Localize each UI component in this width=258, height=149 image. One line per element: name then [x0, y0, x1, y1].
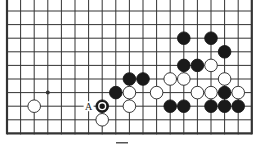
black-stone — [218, 100, 231, 113]
black-stone — [96, 100, 109, 113]
star-point — [46, 91, 50, 95]
black-stone — [137, 73, 150, 86]
black-stone — [218, 46, 231, 59]
black-stone — [110, 86, 123, 99]
black-stone — [205, 100, 218, 113]
black-stone — [164, 100, 177, 113]
black-stone — [218, 86, 231, 99]
black-stone — [191, 59, 204, 72]
white-stone — [232, 86, 245, 99]
star-points — [46, 91, 50, 95]
black-stone — [232, 100, 245, 113]
black-stone — [178, 59, 191, 72]
white-stone — [150, 86, 163, 99]
black-stone — [123, 73, 136, 86]
white-stone — [218, 73, 231, 86]
white-stone — [205, 59, 218, 72]
white-stone — [205, 86, 218, 99]
point-label: A — [85, 101, 93, 112]
white-stone — [28, 100, 41, 113]
black-stone — [178, 100, 191, 113]
black-stone — [205, 32, 218, 45]
white-stone — [164, 73, 177, 86]
board-labels: A — [84, 101, 94, 112]
white-stone — [123, 100, 136, 113]
white-stone — [96, 114, 109, 127]
go-board: A — [0, 0, 258, 149]
white-stone — [123, 86, 136, 99]
white-stone — [191, 86, 204, 99]
bottom-mark — [116, 142, 128, 144]
white-stone — [178, 73, 191, 86]
black-stone — [178, 32, 191, 45]
